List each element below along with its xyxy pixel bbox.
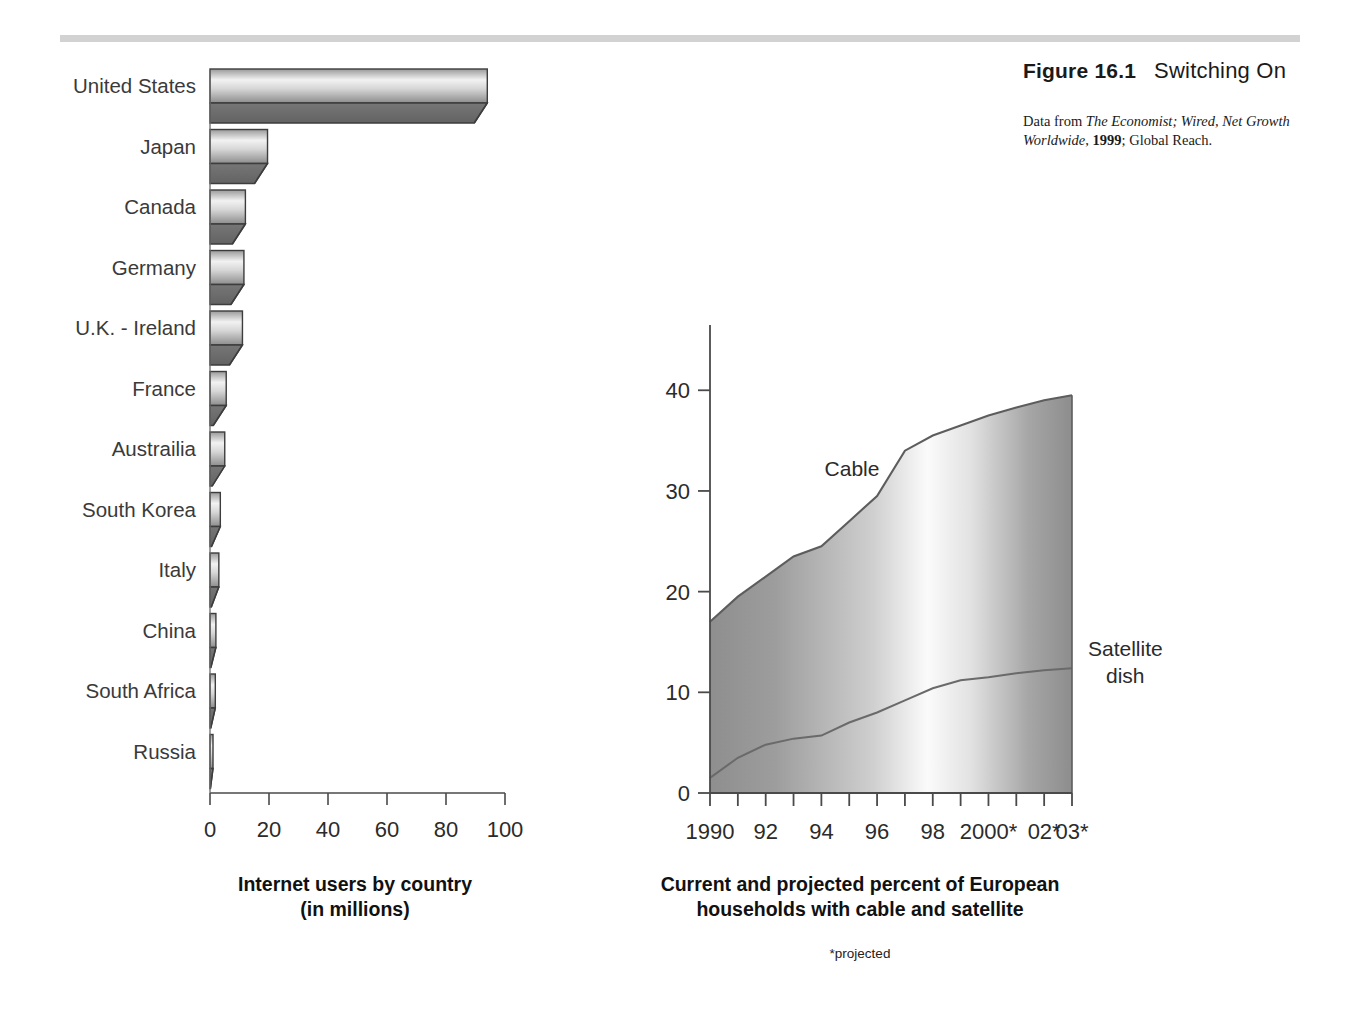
- area-caption-line-2: households with cable and satellite: [600, 897, 1120, 922]
- cable-series-label: Cable: [825, 457, 880, 480]
- area-x-tick-label-5: 2000*: [960, 819, 1018, 844]
- area-x-tick-label-4: 98: [921, 819, 945, 844]
- figure-page: Figure 16.1Switching On Data from The Ec…: [0, 0, 1349, 1016]
- bar-caption-line-1: Internet users by country: [130, 872, 580, 897]
- area-bands: [710, 395, 1072, 793]
- area-x-tick-label-3: 96: [865, 819, 889, 844]
- area-x-tick-label-0: 1990: [686, 819, 735, 844]
- satellite-series-label-line1: Satellite: [1088, 637, 1163, 660]
- bar-chart-caption: Internet users by country (in millions): [130, 872, 580, 923]
- area-chart: 0102030401990929496982000*02*03* CableSa…: [0, 0, 1349, 860]
- area-y-tick-label-0: 0: [678, 781, 690, 806]
- projected-footnote: *projected: [600, 946, 1120, 961]
- area-y-tick-label-3: 30: [666, 479, 690, 504]
- area-filled-body: [710, 395, 1072, 793]
- area-y-tick-label-2: 20: [666, 580, 690, 605]
- area-y-tick-label-1: 10: [666, 680, 690, 705]
- area-x-tick-label-1: 92: [753, 819, 777, 844]
- satellite-series-label-line2: dish: [1106, 664, 1145, 687]
- area-y-tick-label-4: 40: [666, 378, 690, 403]
- area-chart-caption: Current and projected percent of Europea…: [600, 872, 1120, 923]
- area-x-tick-label-2: 94: [809, 819, 833, 844]
- area-x-tick-label-7: 03*: [1055, 819, 1088, 844]
- area-caption-line-1: Current and projected percent of Europea…: [600, 872, 1120, 897]
- bar-caption-line-2: (in millions): [130, 897, 580, 922]
